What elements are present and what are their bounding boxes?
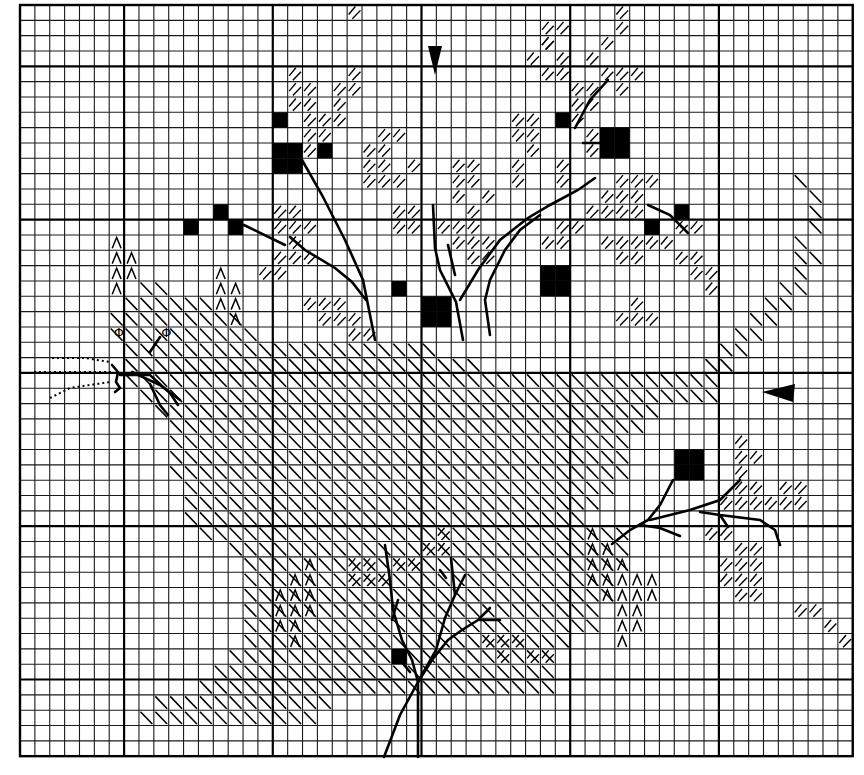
hatch-stitch [605, 240, 613, 248]
diagonal-stitch [453, 558, 465, 570]
diagonal-stitch [438, 512, 450, 524]
hatch-stitch [442, 225, 450, 233]
diagonal-stitch [542, 420, 554, 432]
diagonal-stitch [259, 650, 271, 662]
diagonal-stitch [497, 420, 509, 432]
hatch-stitch [364, 175, 371, 183]
diagonal-stitch [631, 390, 643, 402]
hatch-stitch [709, 271, 717, 279]
diagonal-stitch [423, 528, 435, 540]
hatch-stitch [412, 225, 420, 233]
hatch-stitch [590, 133, 598, 141]
diagonal-stitch [378, 512, 390, 524]
hatch-stitch [572, 83, 579, 91]
diagonal-stitch [527, 512, 539, 524]
diagonal-stitch [482, 420, 494, 432]
hatch-stitch [798, 608, 806, 616]
diagonal-stitch [289, 681, 301, 693]
hatch-stitch [542, 236, 549, 244]
hatch-stitch [635, 317, 643, 325]
hatch-stitch [561, 26, 569, 34]
chevron-stitch [648, 575, 657, 586]
diagonal-stitch [497, 528, 509, 540]
diagonal-stitch [542, 589, 554, 601]
hatch-stitch [735, 497, 742, 505]
diagonal-stitch [482, 451, 494, 463]
diagonal-stitch [364, 604, 376, 616]
hatch-stitch [482, 236, 489, 244]
hatch-stitch [542, 37, 549, 45]
diagonal-stitch [245, 543, 257, 555]
diagonal-stitch [438, 405, 450, 417]
diagonal-stitch [706, 374, 718, 386]
hatch-stitch [278, 225, 286, 233]
diagonal-stitch [304, 696, 316, 708]
hatch-stitch [587, 83, 594, 91]
diagonal-stitch [572, 528, 584, 540]
hatch-stitch [601, 68, 608, 76]
diagonal-stitch [334, 528, 346, 540]
hatch-stitch [724, 578, 732, 586]
hatch-stitch [754, 486, 762, 494]
diagonal-stitch [557, 512, 569, 524]
hatch-stitch [382, 148, 390, 156]
diagonal-stitch [215, 451, 227, 463]
diagonal-stitch [497, 589, 509, 601]
diagonal-stitch [349, 604, 361, 616]
hatch-stitch [572, 98, 579, 106]
minor-grid-lines [20, 5, 853, 756]
hatch-stitch [813, 608, 821, 616]
diagonal-stitch [259, 558, 271, 570]
hatch-stitch [352, 87, 360, 95]
hatch-stitch [798, 486, 806, 494]
diagonal-stitch [259, 666, 271, 678]
hatch-stitch [616, 252, 623, 260]
hatch-stitch [349, 7, 356, 15]
diagonal-stitch [393, 543, 405, 555]
diagonal-stitch [200, 328, 212, 340]
hatch-stitch [408, 160, 415, 168]
hatch-stitch [650, 179, 658, 187]
hatch-stitch [352, 10, 360, 18]
diagonal-stitch [453, 420, 465, 432]
hatch-stitch [587, 52, 594, 60]
diagonal-stitch [482, 543, 494, 555]
hatch-stitch [631, 175, 638, 183]
diagonal-stitch [215, 712, 227, 724]
diagonal-stitch [230, 390, 242, 402]
diagonal-stitch [393, 574, 405, 586]
diagonal-stitch [393, 374, 405, 386]
diagonal-stitch [482, 558, 494, 570]
hatch-stitch [557, 22, 564, 30]
diagonal-stitch [408, 482, 420, 494]
diagonal-stitch [453, 405, 465, 417]
hatch-stitch [739, 440, 747, 448]
hatch-stitch [531, 56, 539, 64]
diagonal-stitch [259, 635, 271, 647]
diagonal-stitch [453, 512, 465, 524]
diagonal-stitch [200, 681, 212, 693]
hatch-stitch [616, 68, 623, 76]
diagonal-stitch [319, 681, 331, 693]
diagonal-stitch [274, 650, 286, 662]
diagonal-stitch [230, 666, 242, 678]
diagonal-stitch [364, 405, 376, 417]
diagonal-stitch [423, 359, 435, 371]
chevron-stitch [633, 575, 642, 586]
diagonal-stitch [587, 420, 599, 432]
diagonal-stitch [810, 190, 822, 202]
diagonal-stitch [259, 466, 271, 478]
branch-backstitch [460, 178, 595, 300]
hatch-stitch [304, 98, 311, 106]
chevron-stitch [618, 590, 627, 601]
diagonal-stitch [765, 298, 777, 310]
diagonal-stitch [155, 712, 167, 724]
diagonal-stitch [378, 405, 390, 417]
diagonal-stitch [319, 543, 331, 555]
hatch-stitch [512, 160, 519, 168]
diagonal-stitch [230, 359, 242, 371]
diagonal-stitch [468, 574, 480, 586]
diagonal-stitch [170, 344, 182, 356]
diagonal-stitch [334, 482, 346, 494]
diagonal-stitch [140, 282, 152, 294]
